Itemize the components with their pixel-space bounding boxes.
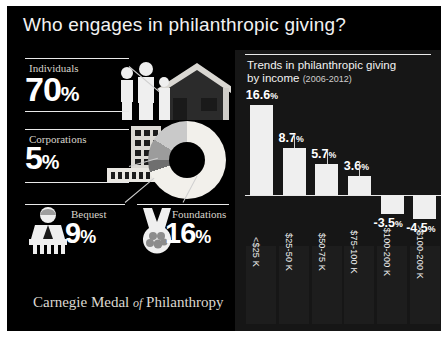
brand-tail: Philanthropy <box>146 294 224 310</box>
divider-individuals-bottom <box>25 111 129 112</box>
bar-value-label-3: 5.7% <box>311 147 336 161</box>
category-text: $100-200 K <box>382 228 392 277</box>
category-label-5: $100-200 K <box>377 246 407 324</box>
category-label-4: $75-100 K <box>344 246 374 324</box>
bar-label-stem-4 <box>359 162 360 176</box>
category-text: $25-50 K <box>284 233 294 271</box>
brand-footer: Carnegie Medal of Philanthropy <box>33 294 224 311</box>
bar-value-label-4: 3.6% <box>344 159 369 173</box>
divider-corporations-top <box>25 129 129 130</box>
stat-number-corporations: 5 <box>25 140 42 176</box>
category-text: $50-75 K <box>317 233 327 271</box>
percent-sign: % <box>61 82 80 105</box>
stat-number-bequest: 9 <box>65 217 80 249</box>
divider-bequest <box>25 204 125 205</box>
percent-sign: % <box>195 227 211 247</box>
page-title: Who engages in philanthropic giving? <box>23 14 346 36</box>
chart-panel-divider <box>245 54 431 55</box>
infographic-canvas: Who engages in philanthropic giving? <box>7 6 441 331</box>
category-label-3: $50-75 K <box>312 246 342 324</box>
stat-number-foundations: 16 <box>165 217 195 249</box>
chart-category-axis: <$25 K$25-50 K$50-75 K$75-100 K$100-200 … <box>245 246 441 324</box>
stat-value-foundations: 16% <box>165 217 211 250</box>
brand-name: Carnegie Medal <box>33 294 129 310</box>
bar-value-label-1: 16.6% <box>246 88 278 102</box>
stat-value-corporations: 5% <box>25 140 59 177</box>
chart-title-line1: Trends in philanthropic giving <box>247 59 396 71</box>
chart-title: Trends in philanthropic giving by income… <box>247 59 437 86</box>
stat-value-individuals: 70% <box>25 70 80 109</box>
category-text: $75-100 K <box>349 230 359 273</box>
chart-title-line2: by income <box>247 72 299 84</box>
category-text: <$25 K <box>251 237 261 267</box>
person-podium-icon <box>27 206 69 254</box>
chart-title-years: (2006-2012) <box>303 74 352 84</box>
chart-baseline <box>245 195 441 196</box>
brand-of: of <box>133 296 142 310</box>
bar-2 <box>283 148 306 195</box>
category-label-2: $25-50 K <box>279 246 309 324</box>
percent-sign: % <box>80 227 96 247</box>
category-label-1: <$25 K <box>246 246 276 324</box>
percent-sign: % <box>42 151 60 173</box>
bar-6 <box>413 195 436 219</box>
stat-number-individuals: 70 <box>25 70 61 108</box>
bar-3 <box>315 164 338 195</box>
divider-individuals-top <box>25 58 129 59</box>
category-text: >$100-200 K <box>415 225 425 279</box>
bar-value-label-2: 8.7% <box>279 131 304 145</box>
bar-4 <box>348 176 371 195</box>
bar-label-stem-3 <box>327 150 328 164</box>
donut-hole <box>169 142 205 178</box>
bar-label-stem-2 <box>294 134 295 148</box>
bar-5 <box>381 195 404 214</box>
divider-foundations <box>137 204 229 205</box>
bar-1 <box>250 105 273 195</box>
donut-chart <box>148 121 226 199</box>
category-label-6: >$100-200 K <box>410 246 440 324</box>
divider-corporations-bottom <box>25 182 129 183</box>
bar-chart: 16.6%8.7%5.7%3.6%-3.5%-4.5% <box>245 94 441 244</box>
image-frame: Who engages in philanthropic giving? <box>0 0 448 340</box>
stat-value-bequest: 9% <box>65 217 96 250</box>
